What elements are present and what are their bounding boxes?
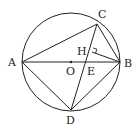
label-e: E: [87, 65, 95, 78]
label-h: H: [77, 45, 87, 58]
segment-bh: [92, 52, 120, 62]
center-dot: [70, 61, 72, 63]
label-c: C: [98, 8, 106, 21]
segment-ad: [22, 62, 71, 110]
label-b: B: [124, 57, 132, 70]
label-a: A: [7, 56, 17, 69]
label-o: O: [66, 65, 75, 78]
geometry-diagram: A B C D O E H: [0, 0, 139, 128]
label-d: D: [66, 114, 75, 127]
